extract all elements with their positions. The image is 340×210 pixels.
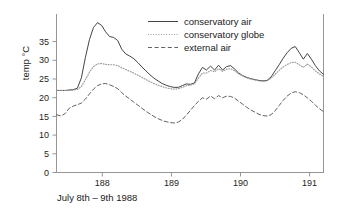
- x-tick-group: 188: [95, 173, 110, 189]
- y-tick-group: 10: [39, 130, 57, 140]
- y-tick-group: 15: [39, 112, 57, 122]
- legend: conservatory air conservatory globe exte…: [148, 16, 264, 53]
- y-tick-label: 0: [44, 168, 49, 178]
- series-line-conservatory-globe: [57, 62, 324, 90]
- y-tick-group: 0: [44, 168, 57, 178]
- y-tick-label: 10: [39, 130, 49, 140]
- x-tick-label: 191: [302, 178, 317, 188]
- x-tick-label: 190: [233, 178, 248, 188]
- chart-figure: 0 5 10 15 20 25: [0, 0, 340, 210]
- x-axis: 188 189 190 191 July 8th – 9th 1988: [57, 173, 317, 204]
- temperature-line-chart: 0 5 10 15 20 25: [0, 0, 340, 210]
- y-tick-label: 25: [39, 74, 49, 84]
- series-line-external-air: [57, 83, 324, 123]
- x-tick-group: 191: [302, 173, 317, 189]
- y-axis-title: temp °C: [20, 46, 31, 81]
- y-tick-label: 20: [39, 93, 49, 103]
- x-axis-caption: July 8th – 9th 1988: [57, 192, 137, 203]
- legend-label: external air: [184, 42, 231, 53]
- y-tick-group: 30: [39, 55, 57, 65]
- y-axis: 0 5 10 15 20 25: [20, 37, 57, 178]
- y-tick-group: 20: [39, 93, 57, 103]
- y-tick-label: 35: [39, 37, 49, 47]
- y-tick-label: 30: [39, 55, 49, 65]
- y-tick-group: 5: [44, 149, 57, 159]
- y-tick-label: 5: [44, 149, 49, 159]
- x-tick-label: 189: [164, 178, 179, 188]
- legend-label: conservatory air: [184, 16, 252, 27]
- legend-entry-conservatory-air: conservatory air: [148, 16, 252, 27]
- legend-entry-external-air: external air: [148, 42, 231, 53]
- x-tick-label: 188: [95, 178, 110, 188]
- y-tick-label: 15: [39, 112, 49, 122]
- y-tick-group: 35: [39, 37, 57, 47]
- y-tick-group: 25: [39, 74, 57, 84]
- x-tick-group: 189: [164, 173, 179, 189]
- legend-entry-conservatory-globe: conservatory globe: [148, 29, 264, 40]
- legend-label: conservatory globe: [184, 29, 264, 40]
- x-tick-group: 190: [233, 173, 248, 189]
